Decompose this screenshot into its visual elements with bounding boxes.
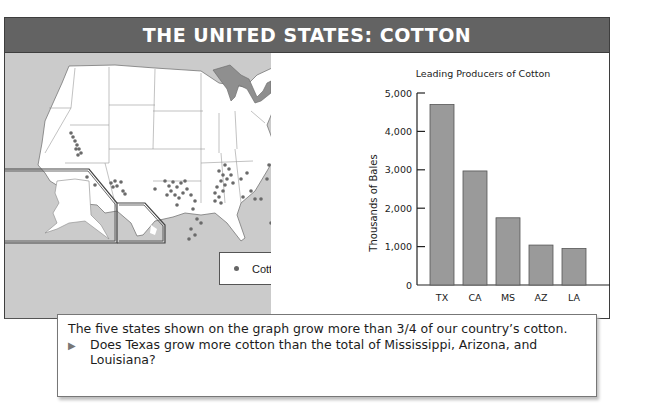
bar-ms	[496, 218, 520, 285]
page-title: THE UNITED STATES: COTTON	[143, 24, 471, 46]
title-banner: THE UNITED STATES: COTTON	[4, 17, 610, 53]
y-tick-label: 2,000	[385, 203, 412, 214]
x-tick-label: MS	[501, 292, 515, 303]
caption-question: Does Texas grow more cotton than the tot…	[90, 337, 586, 368]
x-tick-label: CA	[468, 292, 482, 303]
x-tick-label: TX	[435, 292, 449, 303]
bar-chart-panel: Leading Producers of Cotton Thousands of…	[271, 53, 610, 319]
y-axis-label: Thousands of Bales	[368, 154, 379, 252]
caption-question-row: ▶ Does Texas grow more cotton than the t…	[68, 337, 586, 368]
bar-ca	[463, 171, 487, 285]
bars	[430, 105, 586, 285]
x-tick-label: AZ	[534, 292, 547, 303]
bar-la	[562, 249, 586, 285]
y-tick-label: 1,000	[385, 241, 412, 252]
y-tick-label: 0	[406, 280, 412, 291]
y-tick-label: 4,000	[385, 126, 412, 137]
bar-tx	[430, 105, 454, 285]
y-tick-label: 5,000	[385, 88, 412, 99]
chart-title: Leading Producers of Cotton	[416, 68, 551, 79]
bar-az	[529, 245, 553, 285]
us-cotton-map: Cotton	[4, 53, 271, 319]
caption-box: The five states shown on the graph grow …	[57, 314, 597, 397]
x-tick-label: LA	[568, 292, 581, 303]
cotton-dot-icon	[234, 266, 239, 271]
bar-chart: Leading Producers of Cotton Thousands of…	[271, 53, 610, 319]
legend-label: Cotton	[252, 263, 271, 275]
x-axis-labels: TXCAMSAZLA	[435, 292, 581, 303]
map-legend: Cotton	[219, 252, 271, 285]
triangle-bullet-icon: ▶	[68, 337, 90, 368]
caption-statement: The five states shown on the graph grow …	[68, 321, 586, 337]
y-tick-label: 3,000	[385, 164, 412, 175]
